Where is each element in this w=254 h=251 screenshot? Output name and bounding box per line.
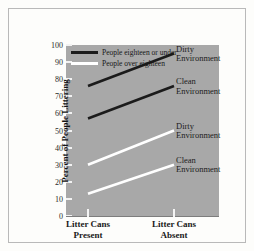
x-tick-label-present-line1: Litter Cans <box>66 219 110 230</box>
callout-teen-dirty-line2: Environment <box>176 54 220 64</box>
callout-adult-dirty: Dirty Environment <box>176 122 220 141</box>
x-tick-label-present-line2: Present <box>66 230 110 241</box>
callout-adult-clean-line2: Environment <box>176 165 220 175</box>
x-tick-label-absent-line1: Litter Cans <box>152 219 196 230</box>
callout-teen-dirty: Dirty Environment <box>176 45 220 64</box>
legend-item-teen: People eighteen or under <box>71 47 191 57</box>
legend-label-teen: People eighteen or under <box>102 48 177 57</box>
legend-swatch-teen <box>71 51 98 54</box>
chart-page: 100 90 80 70 60 50 40 30 20 10 0 <box>0 0 254 251</box>
legend: People eighteen or under People over eig… <box>71 47 191 69</box>
callout-teen-clean-line2: Environment <box>176 87 220 97</box>
x-tick-mark-absent <box>173 209 175 217</box>
legend-label-adult: People over eighteen <box>102 59 165 68</box>
callout-adult-dirty-line2: Environment <box>176 131 220 141</box>
legend-item-adult: People over eighteen <box>71 58 191 68</box>
legend-swatch-adult <box>71 62 98 65</box>
x-tick-label-absent-line2: Absent <box>152 230 196 241</box>
x-tick-mark-present <box>87 209 89 217</box>
y-tick-label-0: 0 <box>59 212 63 221</box>
callout-teen-clean: Clean Environment <box>176 77 220 96</box>
y-tick-label-100: 100 <box>51 41 63 50</box>
y-tick-mark-100 <box>66 44 72 46</box>
page-frame: 100 90 80 70 60 50 40 30 20 10 0 <box>8 8 246 243</box>
y-axis-title-wrap: Percent of People Littering <box>31 45 45 216</box>
y-axis-title: Percent of People Littering <box>60 51 70 211</box>
x-tick-label-absent: Litter Cans Absent <box>152 219 196 241</box>
x-tick-label-present: Litter Cans Present <box>66 219 110 241</box>
callout-adult-clean: Clean Environment <box>176 156 220 175</box>
